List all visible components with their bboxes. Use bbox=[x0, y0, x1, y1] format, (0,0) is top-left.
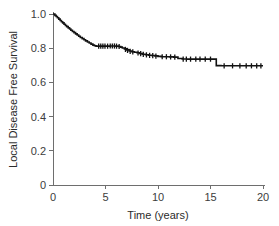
survival-chart-figure: 00.20.40.60.81.0 05101520 Local Disease … bbox=[0, 0, 279, 226]
y-tick-label: 0.8 bbox=[31, 42, 46, 54]
y-tick-label: 1.0 bbox=[31, 8, 46, 20]
y-axis-ticks: 00.20.40.60.81.0 bbox=[31, 8, 53, 191]
x-tick-label: 20 bbox=[257, 191, 269, 203]
kaplan-meier-curve bbox=[53, 14, 263, 66]
x-axis-ticks: 05101520 bbox=[50, 185, 269, 203]
y-axis-title: Local Disease Free Survival bbox=[7, 31, 19, 168]
y-tick-label: 0 bbox=[40, 179, 46, 191]
y-tick-label: 0.4 bbox=[31, 111, 46, 123]
x-tick-label: 15 bbox=[204, 191, 216, 203]
x-tick-label: 0 bbox=[50, 191, 56, 203]
survival-plot: 00.20.40.60.81.0 05101520 Local Disease … bbox=[0, 0, 279, 226]
x-axis-title: Time (years) bbox=[127, 209, 188, 221]
x-tick-label: 10 bbox=[152, 191, 164, 203]
y-tick-label: 0.6 bbox=[31, 76, 46, 88]
y-tick-label: 0.2 bbox=[31, 145, 46, 157]
x-tick-label: 5 bbox=[102, 191, 108, 203]
